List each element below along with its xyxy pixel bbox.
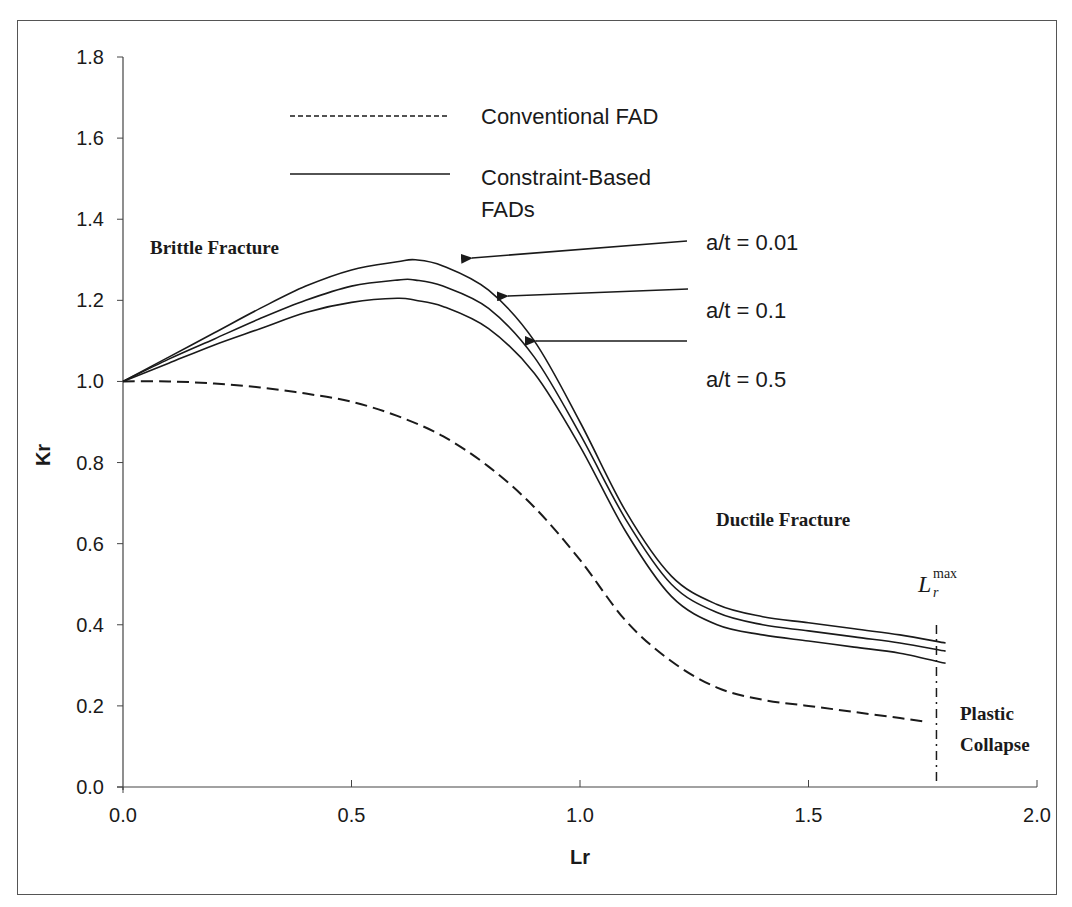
x-axis-label: Lr	[570, 846, 590, 868]
fad-chart: 0.00.20.40.60.81.01.21.41.61.8 0.00.51.0…	[0, 0, 1072, 907]
arrow-at-001	[472, 241, 687, 258]
y-tick-label: 1.8	[76, 46, 104, 68]
svg-text:max: max	[933, 566, 957, 581]
label-at-05: a/t = 0.5	[706, 367, 786, 392]
y-tick-label: 1.6	[76, 127, 104, 149]
constraint-fad-curve	[123, 260, 946, 643]
y-tick-label: 0.2	[76, 695, 104, 717]
y-tick-label: 1.2	[76, 289, 104, 311]
legend-label-conventional: Conventional FAD	[481, 104, 658, 129]
plastic-collapse-label-2: Collapse	[960, 734, 1030, 755]
conventional-fad-curve	[123, 381, 927, 722]
y-tick-label: 1.4	[76, 208, 104, 230]
label-at-01: a/t = 0.1	[706, 298, 786, 323]
lr-max-label: L r max	[917, 566, 957, 600]
plastic-collapse-label: Plastic	[960, 703, 1014, 724]
label-at-001: a/t = 0.01	[706, 230, 798, 255]
series-group	[123, 260, 946, 723]
x-tick-label: 0.0	[109, 804, 137, 826]
x-tick-label: 2.0	[1023, 804, 1051, 826]
constraint-fad-curve	[123, 279, 946, 651]
x-tick-label: 0.5	[338, 804, 366, 826]
y-axis-label: Kr	[32, 444, 54, 466]
y-axis-ticks: 0.00.20.40.60.81.01.21.41.61.8	[76, 46, 123, 798]
ductile-fracture-label: Ductile Fracture	[716, 509, 850, 530]
svg-text:L: L	[917, 571, 931, 597]
y-tick-label: 0.4	[76, 614, 104, 636]
svg-text:r: r	[933, 585, 939, 600]
legend-label-constraint: Constraint-Based	[481, 165, 651, 190]
legend-label-constraint-2: FADs	[481, 197, 535, 222]
x-tick-label: 1.5	[795, 804, 823, 826]
brittle-fracture-label: Brittle Fracture	[150, 237, 279, 258]
legend: Conventional FAD Constraint-Based FADs	[290, 104, 658, 222]
y-tick-label: 0.6	[76, 533, 104, 555]
x-tick-label: 1.0	[566, 804, 594, 826]
y-tick-label: 1.0	[76, 370, 104, 392]
y-tick-label: 0.0	[76, 776, 104, 798]
constraint-fad-curve	[123, 298, 946, 663]
arrow-at-01	[508, 289, 688, 296]
y-tick-label: 0.8	[76, 452, 104, 474]
